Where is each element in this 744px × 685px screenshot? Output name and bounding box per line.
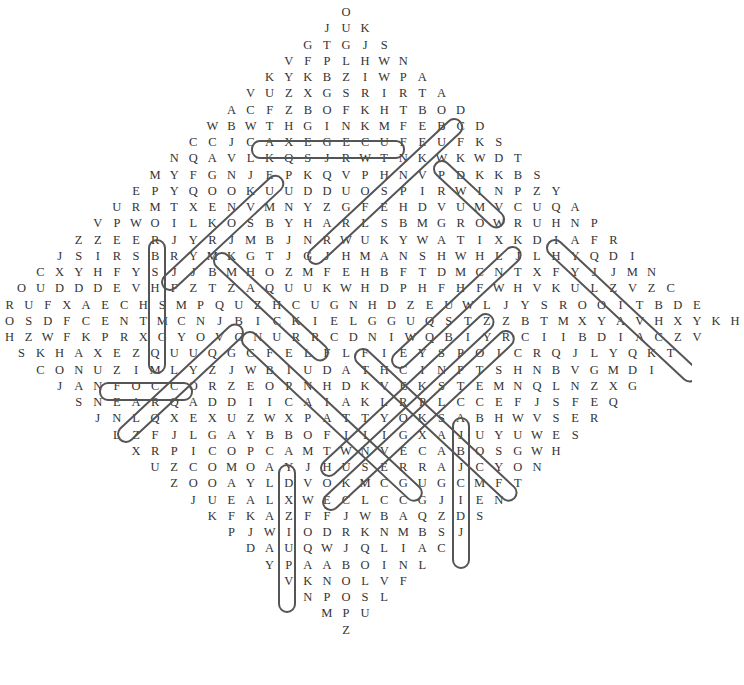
grid-letter[interactable]: Z [336,621,355,639]
grid-letter[interactable]: K [706,312,725,330]
grid-row: Z [0,621,692,639]
grid-letter[interactable]: H [726,312,744,330]
